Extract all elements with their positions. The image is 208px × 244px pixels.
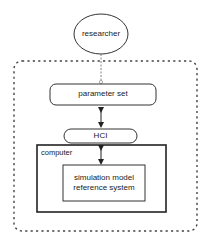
hci-label: HCI xyxy=(64,131,137,141)
parameter-set-label: parameter set xyxy=(50,89,156,99)
simulation-label-line2: reference system xyxy=(63,183,145,193)
computer-label: computer xyxy=(41,148,72,157)
simulation-label-line1: simulation model xyxy=(63,173,145,183)
researcher-label: researcher xyxy=(74,29,128,39)
connector-port-icon xyxy=(99,80,102,83)
